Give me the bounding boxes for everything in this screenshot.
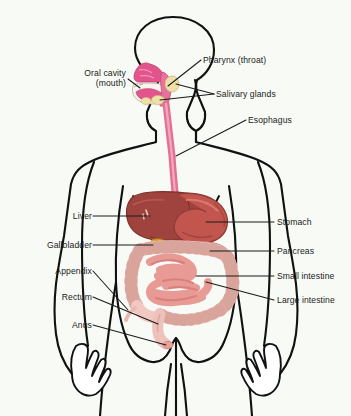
label-gallbladder-text: Gallbladder [47,240,92,250]
esophagus [166,104,175,192]
leader-esophagus [176,120,246,156]
label-pancreas-text: Pancreas [277,246,314,256]
label-pharynx: Pharynx (throat) [203,55,266,65]
label-liver: Liver [48,211,92,221]
label-pharynx-text: Pharynx (throat) [203,55,266,65]
digestive-system-diagram: Oral cavity(mouth) Liver Gallbladder App… [0,0,351,416]
label-stomach-text: Stomach [277,217,312,227]
label-small-intestine: Small intestine [277,271,334,281]
label-salivary-glands-text: Salivary glands [216,89,276,99]
label-salivary-glands: Salivary glands [216,89,276,99]
label-gallbladder: Gallbladder [13,240,92,250]
label-oral-cavity: Oral cavity(mouth) [66,68,126,88]
label-large-intestine-text: Large intestine [277,295,335,305]
label-rectum: Rectum [37,292,92,302]
label-oral-cavity-line2: (mouth) [96,78,126,88]
label-appendix: Appendix [24,266,92,276]
label-esophagus-text: Esophagus [248,115,292,125]
label-appendix-text: Appendix [55,266,92,276]
label-esophagus: Esophagus [248,115,292,125]
label-pancreas: Pancreas [277,246,314,256]
label-stomach: Stomach [277,217,312,227]
label-anus: Anus [50,320,92,330]
label-anus-text: Anus [72,320,92,330]
label-small-intestine-text: Small intestine [277,271,334,281]
nasal-cavity [134,63,163,82]
leader-large-intestine [206,282,274,300]
anatomy-illustration [0,0,351,416]
label-liver-text: Liver [73,211,92,221]
label-large-intestine: Large intestine [277,295,335,305]
label-rectum-text: Rectum [62,292,92,302]
label-oral-cavity-line1: Oral cavity [84,68,126,78]
